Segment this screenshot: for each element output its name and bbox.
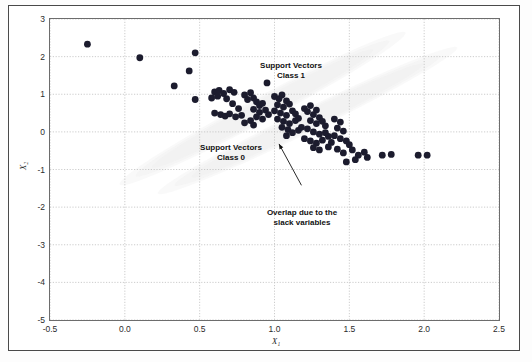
scatter-point xyxy=(214,93,221,100)
scatter-point xyxy=(295,115,302,122)
scatter-point xyxy=(331,132,338,139)
scatter-point xyxy=(343,159,350,166)
scatter-point xyxy=(279,124,286,131)
scatter-point xyxy=(334,125,341,132)
scatter-point xyxy=(280,104,287,111)
scatter-point xyxy=(171,83,178,90)
scatter-point xyxy=(232,113,239,120)
scatter-point xyxy=(259,100,266,107)
y-axis-label: X₂ xyxy=(18,162,28,170)
scatter-point xyxy=(244,96,251,103)
scatter-point xyxy=(424,152,431,159)
scatter-point xyxy=(259,116,266,123)
x-tick-label: 2.5 xyxy=(493,324,505,334)
scatter-point xyxy=(307,117,314,124)
y-tick-label: 3 xyxy=(17,14,45,24)
scatter-point xyxy=(192,49,199,56)
scatter-point xyxy=(334,146,341,153)
scatter-point xyxy=(265,111,272,118)
scatter-point xyxy=(388,151,395,158)
scatter-point xyxy=(250,106,257,113)
scatter-point xyxy=(235,105,242,112)
scatter-point xyxy=(304,125,311,132)
scatter-point xyxy=(208,95,215,102)
x-tick-label: 1.5 xyxy=(343,324,355,334)
annotation-line-2: Class 1 xyxy=(236,71,346,81)
scatter-point xyxy=(340,128,347,135)
y-tick-label: 1 xyxy=(17,89,45,99)
scatter-point xyxy=(280,118,287,125)
scatter-point xyxy=(364,154,371,161)
annotation-line-1: Overlap due to the xyxy=(222,208,382,218)
scatter-point xyxy=(337,119,344,126)
scatter-point xyxy=(283,132,290,139)
scatter-point xyxy=(277,110,284,117)
scatter-point xyxy=(223,95,230,102)
scatter-point xyxy=(279,92,286,99)
x-tick-label: 2.0 xyxy=(418,324,430,334)
x-tick-label: 0.5 xyxy=(194,324,206,334)
scatter-point xyxy=(136,54,143,61)
annotation-line-2: Class 0 xyxy=(176,153,286,163)
annotation-line-2: slack variables xyxy=(222,218,382,228)
scatter-point xyxy=(313,107,320,114)
scatter-point xyxy=(271,107,278,114)
scatter-point xyxy=(310,128,317,135)
x-tick-label: 0.0 xyxy=(119,324,131,334)
annotation-overlap-slack-variables: Overlap due to the slack variables xyxy=(222,208,382,228)
scatter-point xyxy=(250,122,257,129)
scatter-point xyxy=(313,120,320,127)
scatter-point xyxy=(322,122,329,129)
scatter-point xyxy=(307,102,314,109)
scatter-point xyxy=(286,120,293,127)
annotation-line-1: Support Vectors xyxy=(236,61,346,71)
x-axis-label: X₁ xyxy=(272,336,280,346)
y-tick-label: 2 xyxy=(17,52,45,62)
scatter-point xyxy=(301,135,308,142)
scatter-point xyxy=(211,110,218,117)
scatter-point xyxy=(325,144,332,151)
scatter-point xyxy=(238,112,245,119)
scatter-point xyxy=(283,112,290,119)
scatter-point xyxy=(316,147,323,154)
scatter-point xyxy=(415,152,422,159)
scatter-point xyxy=(349,147,356,154)
scatter-point xyxy=(316,131,323,138)
scatter-point xyxy=(274,101,281,108)
y-tick-label: 0 xyxy=(17,127,45,137)
annotation-support-vectors-class-1: Support Vectors Class 1 xyxy=(236,61,346,81)
scatter-point xyxy=(310,144,317,151)
scatter-point xyxy=(84,41,91,48)
scatter-point xyxy=(331,116,338,123)
scatter-point xyxy=(304,108,311,115)
scatter-point xyxy=(340,150,347,157)
scatter-point xyxy=(298,124,305,131)
figure-container: 3210-1-2-3-4-5-0.50.00.51.01.52.02.5 Sup… xyxy=(0,0,532,362)
scatter-point xyxy=(289,129,296,136)
scatter-point xyxy=(352,156,359,163)
scatter-point xyxy=(186,68,193,75)
x-tick-label: 1.0 xyxy=(269,324,281,334)
annotation-support-vectors-class-0: Support Vectors Class 0 xyxy=(176,143,286,163)
scatter-point xyxy=(319,137,326,144)
y-tick-label: -2 xyxy=(17,202,45,212)
scatter-point xyxy=(337,135,344,142)
scatter-point xyxy=(253,113,260,120)
scatter-point xyxy=(229,100,236,107)
scatter-point xyxy=(379,152,386,159)
scatter-point xyxy=(231,89,238,96)
y-tick-label: -3 xyxy=(17,240,45,250)
scatter-point xyxy=(274,116,281,123)
y-tick-label: -4 xyxy=(17,277,45,287)
scatter-point xyxy=(241,119,248,126)
scatter-point xyxy=(286,101,293,108)
scatter-point xyxy=(325,133,332,140)
y-tick-label: -5 xyxy=(17,315,45,325)
x-tick-label: -0.5 xyxy=(43,324,58,334)
scatter-point xyxy=(226,110,233,117)
annotation-line-1: Support Vectors xyxy=(176,143,286,153)
plot-wrapper: 3210-1-2-3-4-5-0.50.00.51.01.52.02.5 Sup… xyxy=(0,0,532,362)
scatter-point xyxy=(192,96,199,103)
scatter-point xyxy=(307,138,314,145)
